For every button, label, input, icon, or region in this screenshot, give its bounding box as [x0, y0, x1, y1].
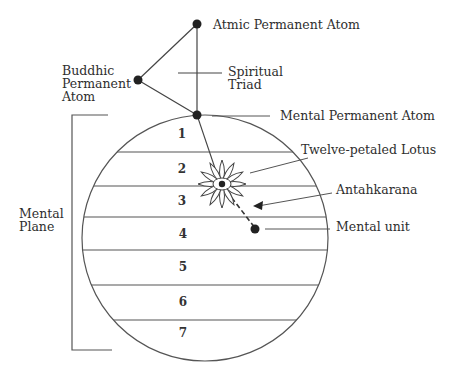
subplane-number-6: 6 — [176, 295, 190, 309]
mental-unit-label: Mental unit — [336, 220, 410, 234]
mental-plane-label-2: Plane — [19, 220, 54, 234]
atmic-atom-label: Atmic Permanent Atom — [213, 18, 360, 32]
mental-plane-bracket — [72, 115, 112, 350]
mental-atom-label: Mental Permanent Atom — [280, 109, 435, 123]
mental-atom-dot — [193, 111, 202, 120]
buddhic-atom-dot — [134, 76, 143, 85]
spiritual-triad-label-2: Triad — [228, 78, 262, 92]
subplane-number-2: 2 — [175, 162, 189, 176]
subplane-number-1: 1 — [175, 127, 189, 141]
antahkarana-label: Antahkarana — [336, 183, 418, 197]
buddhic-atom-label-3: Atom — [62, 90, 95, 104]
subplane-number-3: 3 — [175, 194, 189, 208]
subplane-number-4: 4 — [176, 227, 190, 241]
atmic-atom-dot — [193, 20, 202, 29]
mental-unit-dot — [251, 225, 260, 234]
subplane-number-7: 7 — [176, 326, 190, 340]
lotus-icon — [198, 160, 246, 208]
spiritual-triad-lines — [138, 24, 222, 115]
lotus-label: Twelve-petaled Lotus — [301, 143, 436, 157]
subplane-number-5: 5 — [176, 260, 190, 274]
arrow-icon — [253, 201, 263, 210]
